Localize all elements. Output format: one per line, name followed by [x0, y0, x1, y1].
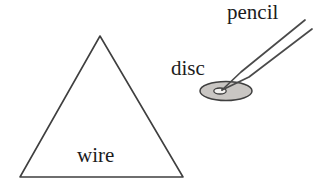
pencil-upper-edge [222, 20, 305, 90]
diagram-vector-layer [0, 0, 326, 183]
pencil-lower-edge [222, 29, 312, 90]
disc-label: disc [171, 58, 205, 79]
wire-label: wire [77, 145, 114, 166]
pencil-label: pencil [227, 2, 278, 23]
diagram-canvas: wire disc pencil [0, 0, 326, 183]
